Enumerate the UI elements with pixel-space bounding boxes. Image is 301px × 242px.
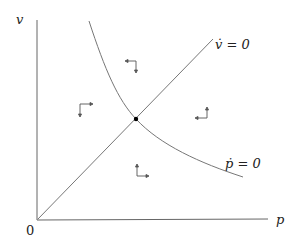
equilibrium-point — [134, 117, 138, 121]
phase-diagram: v p 0 v̇ = 0 ṗ = 0 — [0, 0, 301, 242]
v-dot-nullcline-label: v̇ = 0 — [215, 37, 250, 52]
v-dot-nullcline — [38, 39, 213, 219]
x-axis — [37, 219, 268, 220]
p-dot-nullcline-label: ṗ = 0 — [225, 156, 261, 171]
arrow-bottom-region — [136, 164, 150, 178]
x-axis-label: p — [276, 212, 285, 227]
arrow-right-region — [195, 107, 209, 120]
arrow-left-region — [79, 103, 94, 118]
phase-diagram-svg: v p 0 v̇ = 0 ṗ = 0 — [0, 0, 301, 242]
arrow-top-region — [125, 60, 138, 74]
y-axis-label: v — [16, 12, 24, 27]
origin-label: 0 — [26, 223, 34, 238]
